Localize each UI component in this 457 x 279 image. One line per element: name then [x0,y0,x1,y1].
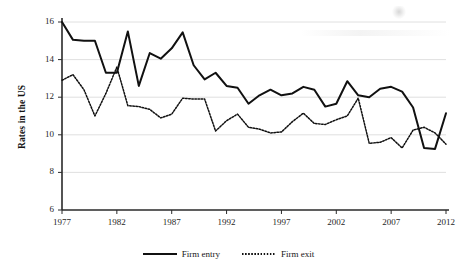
y-tick-16: 16 [32,16,54,26]
y-tick-14: 14 [32,54,54,64]
tick-marks [58,22,446,214]
series-line-firm-exit [62,67,446,148]
y-tick-6: 6 [32,204,54,214]
x-tick-1977: 1977 [44,217,80,227]
legend-item-firm-exit: Firm exit [242,249,314,259]
solid-line-swatch-icon [143,250,177,258]
x-tick-1997: 1997 [263,217,299,227]
x-tick-1992: 1992 [209,217,245,227]
legend-item-firm-entry: Firm entry [143,249,220,259]
legend-label-firm-entry: Firm entry [182,249,220,259]
y-tick-10: 10 [32,129,54,139]
axis-spines [62,18,449,210]
x-tick-2002: 2002 [318,217,354,227]
gridlines [62,22,446,172]
line-chart-plot [0,0,457,279]
dotted-line-swatch-icon [242,250,276,258]
x-tick-2012: 2012 [428,217,457,227]
series-line-firm-entry [62,22,446,149]
x-tick-2007: 2007 [373,217,409,227]
y-tick-12: 12 [32,91,54,101]
chart-legend: Firm entry Firm exit [0,249,457,259]
chart-figure: Rates in the US 6810121416 1977198219871… [0,0,457,279]
y-tick-8: 8 [32,166,54,176]
x-tick-1987: 1987 [154,217,190,227]
legend-label-firm-exit: Firm exit [281,249,314,259]
x-tick-1982: 1982 [99,217,135,227]
